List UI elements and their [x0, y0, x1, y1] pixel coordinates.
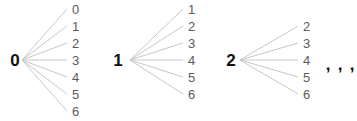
tree-edge — [130, 60, 183, 77]
tree-edge — [22, 60, 67, 111]
leaf-node: 4 — [188, 54, 195, 67]
leaf-node: 5 — [72, 88, 79, 101]
tree-edge — [240, 43, 298, 60]
root-node: 0 — [10, 52, 19, 69]
leaf-node: 5 — [303, 71, 310, 84]
leaf-node: 6 — [72, 105, 79, 118]
tree-edge — [240, 26, 298, 60]
tree-edge — [22, 26, 67, 60]
leaf-node: 4 — [72, 71, 79, 84]
leaf-node: 1 — [188, 3, 195, 16]
tree-edge — [22, 9, 67, 60]
leaf-node: 0 — [72, 3, 79, 16]
leaf-node: 3 — [303, 37, 310, 50]
tree-edge — [130, 43, 183, 60]
leaf-node: 4 — [303, 54, 310, 67]
root-node: 1 — [113, 52, 122, 69]
tree-edge — [130, 60, 183, 94]
leaf-node: 1 — [72, 20, 79, 33]
tree-edge — [240, 60, 298, 94]
leaf-node: 5 — [188, 71, 195, 84]
leaf-node: 2 — [72, 37, 79, 50]
tree-edge — [240, 60, 298, 77]
tree-edge — [22, 43, 67, 60]
continuation-comma: , — [326, 56, 331, 73]
continuation-comma: , — [350, 56, 355, 73]
continuation-comma: , — [338, 56, 343, 73]
leaf-node: 2 — [303, 20, 310, 33]
tree-edge — [22, 60, 67, 94]
leaf-node: 6 — [188, 88, 195, 101]
leaf-node: 6 — [303, 88, 310, 101]
tree-fan-diagram: 001234561123456223456,,, — [0, 0, 357, 121]
root-node: 2 — [226, 52, 235, 69]
tree-edge — [130, 26, 183, 60]
tree-edge — [130, 9, 183, 60]
tree-edge — [22, 60, 67, 77]
leaf-node: 3 — [188, 37, 195, 50]
leaf-node: 2 — [188, 20, 195, 33]
leaf-node: 3 — [72, 54, 79, 67]
